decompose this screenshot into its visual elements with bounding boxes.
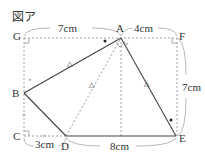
- point-C: C: [13, 130, 20, 142]
- triangle-mark-AB: △: [67, 60, 73, 68]
- right-angle-marks: [24, 38, 177, 136]
- dot-mark-E: [170, 119, 173, 122]
- length-GA: 7cm: [58, 22, 77, 34]
- point-F: F: [179, 30, 185, 42]
- triangle-mark-AE: △: [144, 80, 150, 88]
- point-A: A: [116, 22, 124, 34]
- length-CD: 3cm: [35, 138, 54, 150]
- dashed-rectangle: [24, 38, 177, 136]
- cross-mark-A: ×: [125, 41, 128, 47]
- length-arcs: [24, 28, 186, 146]
- point-E: E: [179, 132, 186, 144]
- point-G: G: [13, 30, 21, 42]
- triangle-mark-AD: △: [89, 81, 95, 89]
- length-FE: 7cm: [182, 81, 201, 93]
- solid-edges: [24, 38, 176, 136]
- segment-AB: [24, 38, 121, 93]
- cross-mark-B: ×: [28, 77, 31, 83]
- point-D: D: [61, 140, 69, 152]
- length-DE: 8cm: [110, 140, 129, 152]
- point-B: B: [12, 87, 19, 99]
- dot-mark-A: [104, 40, 107, 43]
- length-AF: 4cm: [134, 22, 153, 34]
- circle-mark-BC: ○: [22, 112, 26, 118]
- geometry-figure: △ △ △ × × ○ ○ 図ア G A F B C D E 7cm 4cm 7…: [0, 0, 205, 164]
- segment-BD: [24, 93, 66, 136]
- figure-title: 図ア: [12, 10, 36, 24]
